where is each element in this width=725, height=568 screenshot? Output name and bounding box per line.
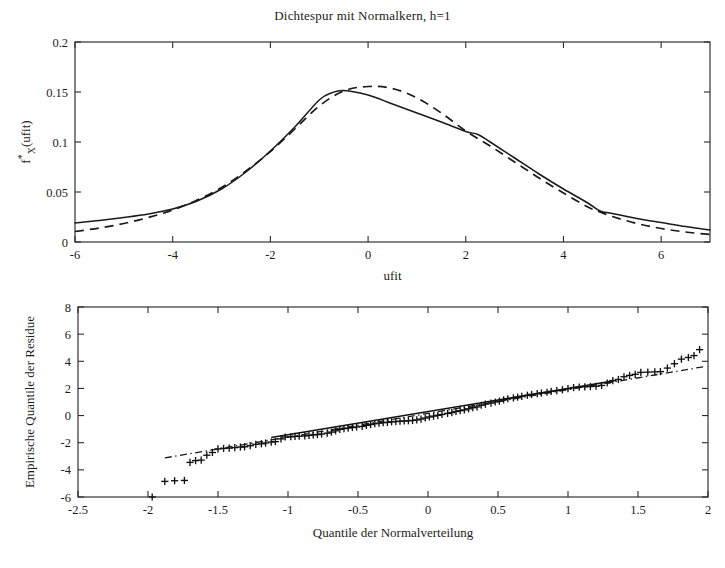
qq-data-point xyxy=(434,412,441,419)
x-tick-label: -2 xyxy=(143,503,153,517)
qq-data-point xyxy=(161,478,168,485)
x-tick-label: -4 xyxy=(167,248,178,262)
density-plot-frame xyxy=(75,42,710,242)
qq-data-point xyxy=(422,414,429,421)
y-tick-label: 0.1 xyxy=(52,136,68,150)
qq-data-point xyxy=(696,346,703,353)
qq-data-point xyxy=(430,413,437,420)
y-tick-label: -6 xyxy=(61,491,71,505)
x-tick-label: 0 xyxy=(365,248,371,262)
density-plot-panel: Dichtespur mit Normalkern, h=1 -6-4-2024… xyxy=(0,0,725,284)
svg-text:Empirische Quantile der Residu: Empirische Quantile der Residue xyxy=(22,316,37,488)
qq-data-point xyxy=(644,369,651,376)
qq-data-point xyxy=(426,413,433,420)
qq-data-point xyxy=(564,385,571,392)
qq-plot-panel: -2.5-2-1.5-1-0.500.511.52-6-4-202468Quan… xyxy=(0,284,725,568)
qq-data-point xyxy=(518,393,525,400)
x-tick-label: 2 xyxy=(463,248,469,262)
qq-data-point xyxy=(198,456,205,463)
qq-data-point xyxy=(171,477,178,484)
qq-data-point xyxy=(181,477,188,484)
y-tick-label: 0 xyxy=(62,236,68,250)
x-tick-label: -1.5 xyxy=(208,503,228,517)
qq-data-point xyxy=(538,389,545,396)
qq-data-point xyxy=(664,364,671,371)
qq-data-point xyxy=(671,360,678,367)
density-x-axis-title: ufit xyxy=(383,268,401,283)
figure-canvas: Dichtespur mit Normalkern, h=1 -6-4-2024… xyxy=(0,0,725,568)
qq-data-point xyxy=(186,459,193,466)
x-tick-label: 0 xyxy=(425,503,431,517)
density-y-axis-title: f*X(ufit) xyxy=(16,120,37,163)
qq-data-point xyxy=(514,394,521,401)
qq-data-point xyxy=(247,442,254,449)
x-tick-label: 1 xyxy=(565,503,571,517)
qq-data-point xyxy=(500,396,507,403)
qq-data-point xyxy=(559,386,566,393)
qq-data-point xyxy=(657,368,664,375)
qq-plot-axes: -2.5-2-1.5-1-0.500.511.52-6-4-202468Quan… xyxy=(0,284,725,568)
density-plot-axes: -6-4-2024600.050.10.150.2ufitf*X(ufit) xyxy=(0,0,725,284)
qq-y-axis-title: Empirische Quantile der Residue xyxy=(22,316,37,488)
y-tick-label: -4 xyxy=(61,463,72,477)
y-tick-label: -2 xyxy=(61,436,71,450)
x-tick-label: 2 xyxy=(705,503,711,517)
x-tick-label: -1 xyxy=(283,503,293,517)
x-tick-label: -6 xyxy=(70,248,80,262)
qq-data-point xyxy=(524,392,531,399)
x-tick-label: -2 xyxy=(265,248,275,262)
x-tick-label: 1.5 xyxy=(630,503,646,517)
qq-plot-frame xyxy=(78,307,708,497)
y-tick-label: 0.15 xyxy=(46,86,68,100)
y-tick-label: 8 xyxy=(65,301,71,315)
x-tick-label: 4 xyxy=(560,248,567,262)
qq-data-point xyxy=(543,389,550,396)
qq-data-point xyxy=(626,372,633,379)
density-series-solid xyxy=(75,90,710,230)
x-tick-label: 6 xyxy=(658,248,664,262)
y-tick-label: 6 xyxy=(65,328,71,342)
density-series-dashed xyxy=(75,86,710,234)
qq-data-point xyxy=(678,356,685,363)
svg-text:f*X(ufit): f*X(ufit) xyxy=(16,120,37,163)
x-tick-label: 0.5 xyxy=(490,503,506,517)
y-tick-label: 2 xyxy=(65,382,71,396)
qq-marker-group xyxy=(149,346,704,501)
y-tick-label: 0.2 xyxy=(52,36,68,50)
x-tick-label: -0.5 xyxy=(348,503,368,517)
qq-data-point xyxy=(149,493,156,500)
qq-data-point xyxy=(262,439,269,446)
qq-data-point xyxy=(548,388,555,395)
qq-data-point xyxy=(417,416,424,423)
qq-data-point xyxy=(553,387,560,394)
qq-data-point xyxy=(504,395,511,402)
qq-data-point xyxy=(258,440,265,447)
qq-x-axis-title: Quantile der Normalverteilung xyxy=(313,525,474,540)
y-tick-label: 0 xyxy=(65,409,71,423)
y-tick-label: 4 xyxy=(65,355,72,369)
qq-data-point xyxy=(528,391,535,398)
qq-data-point xyxy=(510,394,517,401)
x-tick-label: -2.5 xyxy=(68,503,88,517)
qq-data-point xyxy=(461,406,468,413)
qq-data-point xyxy=(413,416,420,423)
y-tick-label: 0.05 xyxy=(46,186,68,200)
qq-data-point xyxy=(324,430,331,437)
